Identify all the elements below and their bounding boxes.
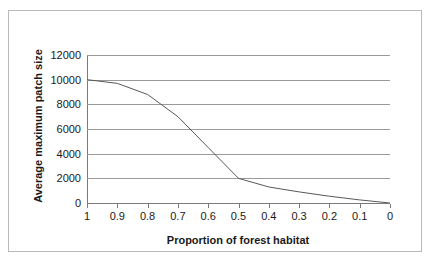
y-tick-label-2000: 2000 — [35, 172, 81, 184]
x-tick-0.5 — [239, 204, 240, 208]
x-tick-0.6 — [208, 204, 209, 208]
x-tick-0.7 — [178, 204, 179, 208]
x-axis-title: Proportion of forest habitat — [86, 234, 390, 246]
x-tick-0.8 — [148, 204, 149, 208]
x-tick-0.3 — [299, 204, 300, 208]
x-axis-tick-labels: 10.90.80.70.60.50.40.30.20.10 — [87, 210, 390, 226]
y-tick-label-0: 0 — [35, 197, 81, 209]
y-tick-label-8000: 8000 — [35, 98, 81, 110]
x-tick-0.9 — [117, 204, 118, 208]
series-line — [87, 55, 390, 203]
x-tick-0.2 — [329, 204, 330, 208]
y-tick-label-6000: 6000 — [35, 123, 81, 135]
x-axis-ticks — [87, 204, 390, 209]
y-tick-label-10000: 10000 — [35, 74, 81, 86]
plot-area — [87, 55, 390, 203]
chart-figure: Average maximum patch size 1200010000800… — [0, 0, 434, 271]
x-tick-0.4 — [269, 204, 270, 208]
y-tick-label-12000: 12000 — [35, 49, 81, 61]
x-tick-0.1 — [360, 204, 361, 208]
x-tick-label-0: 0 — [370, 210, 410, 222]
x-tick-1 — [87, 204, 88, 208]
x-tick-0 — [390, 204, 391, 208]
y-tick-label-4000: 4000 — [35, 148, 81, 160]
y-axis-tick-labels: 120001000080006000400020000 — [33, 55, 81, 203]
